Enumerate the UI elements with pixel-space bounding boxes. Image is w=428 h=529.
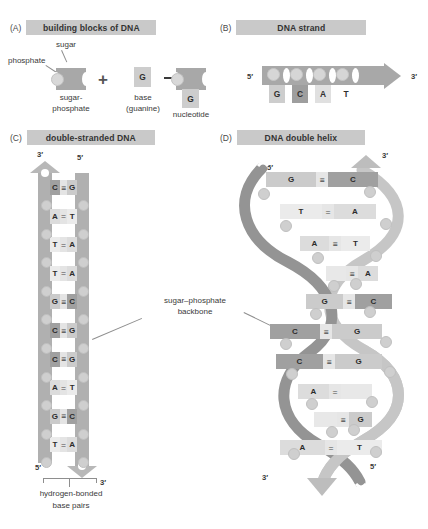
- panel-d-sugar-circle: [258, 188, 270, 200]
- panel-c-sugar-circle: [78, 429, 89, 440]
- brace-tick-right: [96, 478, 97, 483]
- backbone-leader-left: [92, 318, 142, 340]
- panel-b-base-a: A: [315, 85, 331, 103]
- panel-d-base-pair: A=: [298, 384, 372, 399]
- panel-d-sugar-circle: [348, 424, 360, 436]
- panel-c-base-pair: C≡G: [50, 180, 77, 195]
- label-sugar-phosphate-1: sugar-: [41, 93, 101, 102]
- panel-d-sugar-circle: [364, 306, 376, 318]
- panel-d-sugar-circle: [366, 396, 378, 408]
- panel-b-base-t: T: [338, 85, 354, 103]
- label-sugar: sugar: [56, 40, 76, 49]
- panel-d-sugar-circle: [288, 448, 300, 460]
- panel-c-sugar-circle: [41, 429, 52, 440]
- hydrogen-bond-symbol: ≡: [323, 354, 335, 369]
- panel-c-brace: [43, 478, 97, 487]
- hydrogen-bond-symbol: ≡: [320, 324, 332, 339]
- base-left: T: [50, 237, 60, 252]
- panel-b-sugar-circle: [267, 68, 280, 81]
- base-left: C: [50, 180, 60, 195]
- base-left: A: [298, 384, 329, 399]
- panel-c-title: double-stranded DNA: [27, 130, 155, 145]
- base-right: T: [67, 380, 77, 395]
- base-right: C: [328, 172, 378, 187]
- hydrogen-bond-symbol: =: [60, 237, 68, 252]
- panel-b-direction-arrow: [384, 63, 401, 89]
- base-left: G: [50, 294, 60, 309]
- panel-d-title: DNA double helix: [237, 130, 365, 145]
- panel-d-sugar-circle: [312, 252, 324, 264]
- base-guanine-box: G: [134, 67, 151, 87]
- base-left: C: [276, 354, 323, 369]
- panel-c-top-right-prime: 5′: [77, 153, 83, 162]
- base-left: C: [50, 352, 60, 367]
- panel-c-sugar-circle: [78, 343, 89, 354]
- panel-b-backbone-notch: [306, 68, 313, 83]
- panel-b-header: (B) DNA strand: [220, 20, 366, 35]
- base-left: G: [50, 409, 60, 424]
- panel-c-base-pair: C≡G: [50, 323, 77, 338]
- base-right: T: [341, 236, 370, 251]
- panel-b-sugar-circle: [313, 68, 326, 81]
- panel-b-backbone-notch: [352, 68, 359, 83]
- panel-d-sugar-circle: [280, 220, 292, 232]
- base-guanine-letter: G: [139, 72, 146, 82]
- hydrogen-bond-symbol: ≡: [60, 323, 68, 338]
- base-right: C: [67, 294, 77, 309]
- panel-c-sugar-circle: [78, 200, 89, 211]
- panel-b-base-letter: C: [297, 89, 303, 99]
- hydrogen-bond-symbol: =: [329, 384, 341, 399]
- panel-b-letter: (B): [220, 23, 231, 33]
- panel-d-sugar-circle: [370, 446, 382, 458]
- panel-c-base-pair: T=A: [50, 266, 77, 281]
- base-left: T: [280, 204, 322, 219]
- leader-sugar: [61, 50, 67, 62]
- panel-b-three-prime: 3′: [411, 72, 417, 81]
- panel-a-title: building blocks of DNA: [26, 20, 156, 35]
- sugar-notch-right: [82, 72, 90, 86]
- panel-b-sugar-circle: [336, 68, 349, 81]
- panel-c-base-pair: A=T: [50, 380, 77, 395]
- base-left: G: [266, 172, 316, 187]
- hydrogen-bond-symbol: =: [60, 380, 68, 395]
- panel-c-sugar-circle: [78, 229, 89, 240]
- base-left: A: [50, 209, 60, 224]
- panel-d-base-pair: G≡C: [306, 294, 392, 309]
- panel-c-sugar-circle: [41, 457, 52, 468]
- panel-d-sugar-circle: [326, 426, 338, 438]
- panel-b-five-prime: 5′: [247, 72, 253, 81]
- panel-d-base-pair: T=A: [280, 204, 376, 219]
- panel-d-sugar-circle: [328, 280, 340, 292]
- panel-c-sugar-circle: [41, 343, 52, 354]
- panel-b-base-c: C: [292, 85, 308, 103]
- panel-b-title: DNA strand: [236, 20, 366, 35]
- phosphate-circle: [51, 73, 64, 86]
- nucleotide-phosphate-circle: [171, 73, 184, 86]
- base-left: A: [280, 440, 325, 455]
- panel-d-sugar-circle: [384, 366, 396, 378]
- base-left: C: [50, 323, 60, 338]
- panel-a-header: (A) building blocks of DNA: [10, 20, 156, 35]
- hydrogen-bond-symbol: ≡: [316, 172, 328, 187]
- panel-d-sugar-circle: [380, 218, 392, 230]
- panel-c-letter: (C): [10, 133, 22, 143]
- panel-b-backbone-notch: [329, 68, 336, 83]
- panel-c-sugar-circle: [78, 372, 89, 383]
- panel-c-sugar-circle: [41, 286, 52, 297]
- base-left: A: [300, 236, 329, 251]
- hydrogen-bond-symbol: ≡: [60, 352, 68, 367]
- panel-b-base-g: G: [269, 85, 285, 103]
- panel-b-base-letter: A: [320, 89, 326, 99]
- base-right: G: [332, 324, 382, 339]
- base-right: A: [334, 204, 376, 219]
- panel-c-sugar-circle: [41, 229, 52, 240]
- panel-b-base-letter: T: [343, 89, 348, 99]
- base-left: T: [50, 266, 60, 281]
- panel-c-header: (C) double-stranded DNA: [10, 130, 155, 145]
- nucleotide-base-box: G: [182, 89, 199, 108]
- panel-c-left-rail-notch: [41, 169, 49, 177]
- hydrogen-bond-symbol: =: [322, 204, 334, 219]
- panel-c-base-pair: A=T: [50, 209, 77, 224]
- base-right: G: [67, 323, 77, 338]
- label-sugar-phosphate-2: phosphate: [41, 104, 101, 113]
